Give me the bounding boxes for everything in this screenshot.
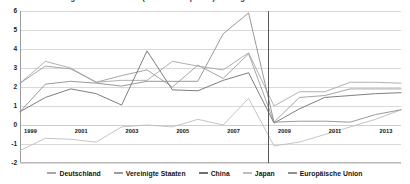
y-tick-label: 3 [3,65,17,72]
legend-label: Deutschland [59,170,100,177]
y-tick-label: 2 [3,84,17,91]
legend-label: China [211,170,230,177]
x-tick-label: 2001 [75,128,88,134]
x-tick-label: 1999 [24,128,37,134]
legend-item[interactable]: China [199,170,230,177]
line-chart: Entwicklung der Inflationsrate (Verbrauc… [0,0,410,184]
legend-swatch [243,172,252,173]
x-tick-label: 2003 [126,128,139,134]
y-tick-label: 0 [3,122,17,129]
x-tick-label: 2009 [278,128,291,134]
y-tick-label: 1 [3,103,17,110]
y-axis-tick-labels: 6543210-1-2 [0,11,17,163]
chart-legend: DeutschlandVereinigte StaatenChinaJapanE… [0,166,410,180]
y-tick-label: 5 [3,27,17,34]
legend-item[interactable]: Vereinigte Staaten [114,170,186,177]
x-tick-label: 2005 [176,128,189,134]
x-tick-label: 2007 [227,128,240,134]
legend-label: Japan [255,170,275,177]
chart-title: Entwicklung der Inflationsrate (Verbrauc… [30,0,380,2]
legend-item[interactable]: Europäische Union [288,170,363,177]
legend-swatch [199,172,208,173]
legend-label: Vereinigte Staaten [126,170,186,177]
y-tick-label: 4 [3,46,17,53]
x-axis-tick-labels: 19992001200320052007200920112013 [20,11,401,163]
y-tick-label: -1 [3,141,17,148]
legend-swatch [47,172,56,173]
legend-label: Europäische Union [300,170,363,177]
y-tick-label: 6 [3,8,17,15]
gridline [20,163,401,164]
x-tick-label: 2013 [380,128,393,134]
x-tick-label: 2011 [329,128,342,134]
legend-swatch [114,172,123,173]
legend-item[interactable]: Deutschland [47,170,100,177]
legend-item[interactable]: Japan [243,170,275,177]
legend-swatch [288,172,297,173]
